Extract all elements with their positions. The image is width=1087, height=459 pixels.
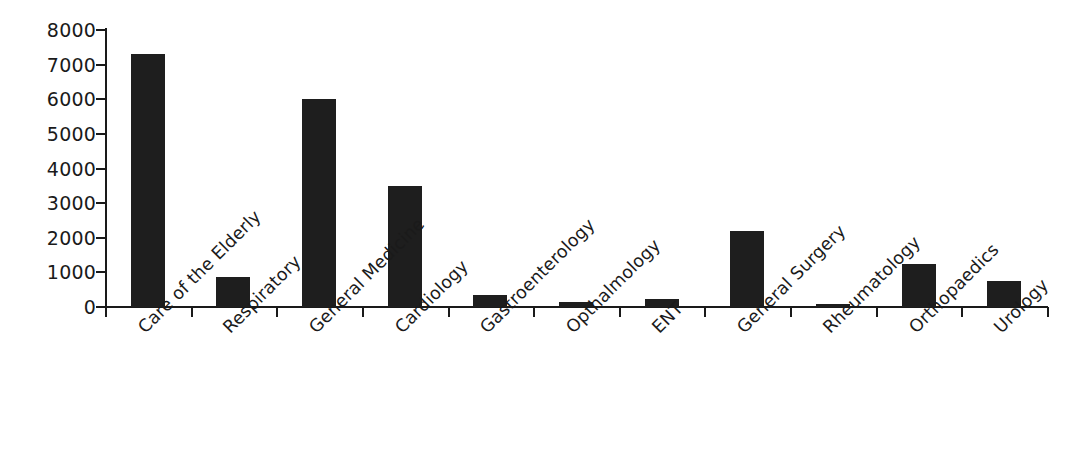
x-axis-tick-mark bbox=[448, 307, 450, 317]
bar bbox=[559, 302, 593, 307]
y-axis-tick-mark bbox=[96, 237, 105, 239]
bar bbox=[131, 54, 165, 307]
bar bbox=[816, 304, 850, 307]
x-axis-tick-mark bbox=[533, 307, 535, 317]
y-axis-tick-label: 0 bbox=[84, 296, 96, 318]
x-axis-tick-mark bbox=[276, 307, 278, 317]
y-axis-tick-label: 3000 bbox=[47, 192, 96, 214]
y-axis-tick-label: 2000 bbox=[47, 227, 96, 249]
bar bbox=[730, 231, 764, 307]
bar bbox=[473, 295, 507, 307]
y-axis-tick-label: 7000 bbox=[47, 54, 96, 76]
x-axis-tick-mark bbox=[362, 307, 364, 317]
bar bbox=[902, 264, 936, 307]
bar bbox=[302, 99, 336, 307]
y-axis-tick-label: 1000 bbox=[47, 261, 96, 283]
x-axis-tick-mark bbox=[191, 307, 193, 317]
bar bbox=[987, 281, 1021, 307]
y-axis-tick-mark bbox=[96, 202, 105, 204]
y-axis-tick-label: 4000 bbox=[47, 158, 96, 180]
x-axis-tick-mark bbox=[105, 307, 107, 317]
x-axis-tick-mark bbox=[961, 307, 963, 317]
bar bbox=[388, 186, 422, 307]
x-axis-tick-mark bbox=[790, 307, 792, 317]
y-axis-tick-mark bbox=[96, 168, 105, 170]
x-axis-tick-mark bbox=[1047, 307, 1049, 317]
y-axis-tick-label: 6000 bbox=[47, 88, 96, 110]
x-axis-tick-mark bbox=[876, 307, 878, 317]
y-axis-tick-mark bbox=[96, 271, 105, 273]
y-axis-tick-label: 5000 bbox=[47, 123, 96, 145]
x-axis-tick-mark bbox=[619, 307, 621, 317]
bar-chart: 010002000300040005000600070008000 Care o… bbox=[0, 0, 1087, 459]
plot-area bbox=[105, 30, 1047, 307]
y-axis-tick-mark bbox=[96, 306, 105, 308]
bar bbox=[216, 277, 250, 307]
y-axis-tick-mark bbox=[96, 98, 105, 100]
y-axis-tick-mark bbox=[96, 29, 105, 31]
y-axis-tick-mark bbox=[96, 64, 105, 66]
y-axis-tick-label: 8000 bbox=[47, 19, 96, 41]
y-axis-tick-mark bbox=[96, 133, 105, 135]
x-axis-tick-mark bbox=[704, 307, 706, 317]
bar bbox=[645, 299, 679, 307]
